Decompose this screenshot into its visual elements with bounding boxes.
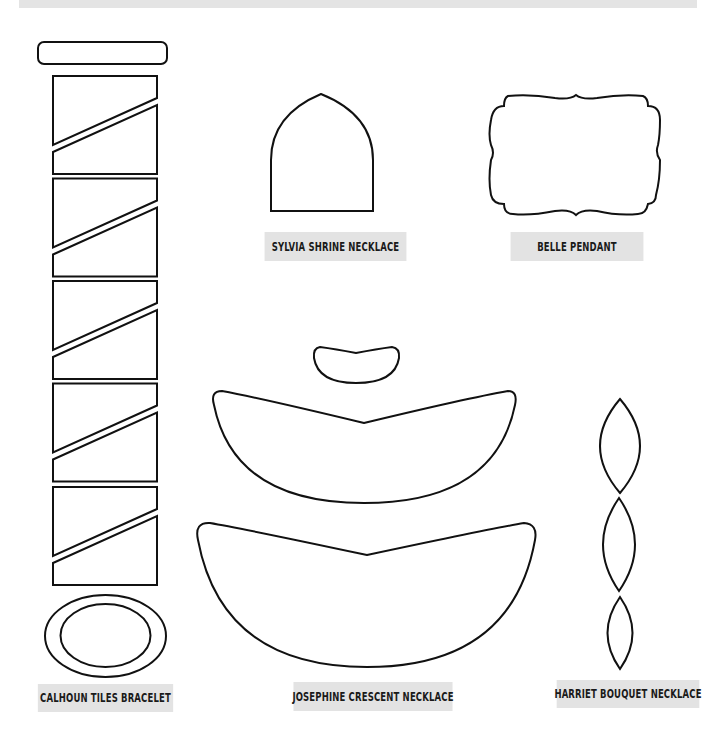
leaf-large-shape <box>600 399 640 493</box>
label-josephine-crescent-necklace: JOSEPHINE CRESCENT NECKLACE <box>293 682 452 711</box>
rounded-bar-shape <box>38 42 167 64</box>
oval-inner-shape <box>61 604 151 667</box>
calhoun-tiles-bracelet-shapes <box>38 42 167 677</box>
tile-2 <box>53 179 157 277</box>
tile-5 <box>53 487 157 585</box>
tile-1 <box>53 76 157 174</box>
tile-3 <box>53 281 157 379</box>
belle-frame-shape <box>490 95 661 215</box>
crescent-small-shape <box>314 347 399 383</box>
label-belle-pendant: BELLE PENDANT <box>511 232 644 261</box>
sylvia-arch-shape <box>271 94 373 211</box>
template-shapes <box>0 0 726 738</box>
crescent-large-shape <box>197 523 535 667</box>
leaf-small-shape <box>608 597 633 669</box>
label-calhoun-tiles-bracelet: CALHOUN TILES BRACELET <box>38 684 173 712</box>
label-harriet-bouquet-necklace: HARRIET BOUQUET NECKLACE <box>557 680 700 708</box>
label-sylvia-shrine-necklace: SYLVIA SHRINE NECKLACE <box>265 232 407 261</box>
leaf-medium-shape <box>603 498 635 591</box>
tile-4 <box>53 384 157 482</box>
crescent-medium-shape <box>213 391 516 503</box>
